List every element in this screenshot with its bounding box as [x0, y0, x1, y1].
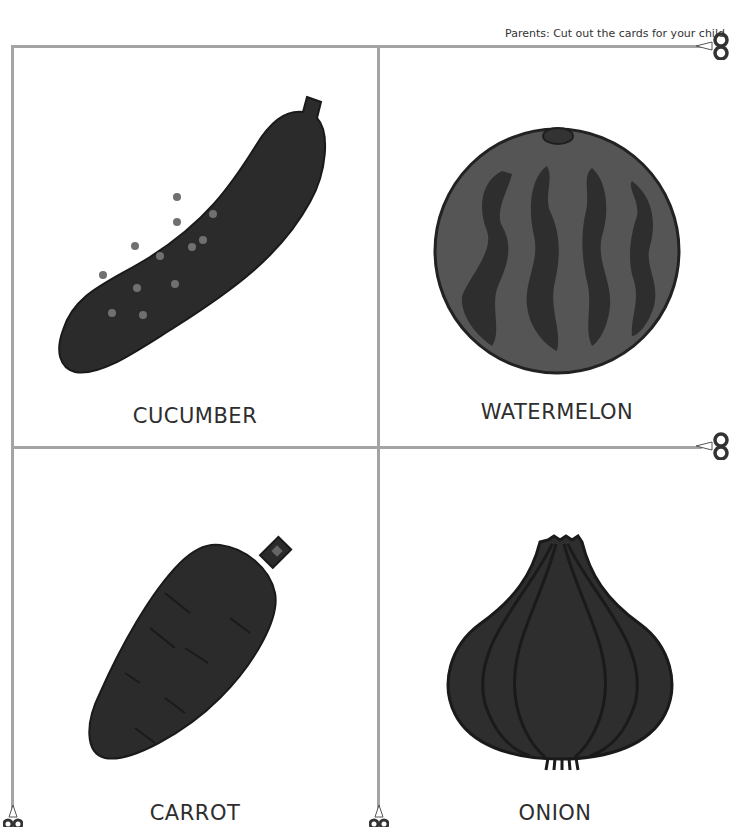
parents-instruction: Parents: Cut out the cards for your chil… — [505, 27, 728, 40]
cut-line-middle-horizontal — [12, 446, 702, 449]
watermelon-icon — [432, 126, 682, 376]
card-label: CUCUMBER — [45, 404, 345, 428]
scissors-icon — [3, 805, 23, 827]
cut-line-left — [11, 45, 14, 810]
cut-line-top — [12, 45, 702, 48]
card-label: WATERMELON — [407, 400, 707, 424]
scissors-icon — [696, 432, 732, 460]
onion-icon — [440, 534, 680, 774]
card-label: ONION — [405, 801, 705, 825]
scissors-icon — [696, 32, 732, 60]
cucumber-icon — [55, 92, 335, 382]
cut-line-middle — [377, 45, 380, 810]
scissors-icon — [369, 805, 389, 827]
carrot-icon — [80, 533, 310, 763]
card-label: CARROT — [45, 801, 345, 825]
